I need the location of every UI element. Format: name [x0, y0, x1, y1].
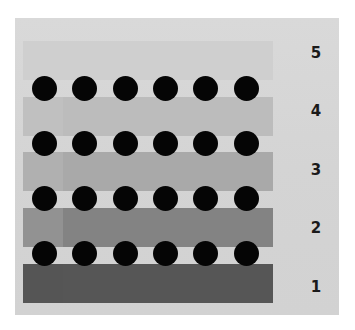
black-dot	[153, 76, 178, 101]
black-dot	[153, 131, 178, 156]
black-dot	[193, 241, 218, 266]
black-dot	[234, 131, 259, 156]
black-dot	[32, 241, 57, 266]
level-label-4: 4	[306, 102, 326, 120]
gray-band-2	[23, 208, 273, 247]
level-label-5: 5	[306, 44, 326, 62]
black-dot	[193, 76, 218, 101]
black-dot	[72, 186, 97, 211]
black-dot	[153, 186, 178, 211]
black-dot	[234, 76, 259, 101]
black-dot	[234, 241, 259, 266]
gray-band-1	[23, 264, 273, 303]
level-label-3: 3	[306, 161, 326, 179]
black-dot	[193, 186, 218, 211]
black-dot	[72, 131, 97, 156]
black-dot	[113, 131, 138, 156]
gray-band-left-segment	[23, 264, 63, 303]
gray-band-4	[23, 97, 273, 136]
black-dot	[153, 241, 178, 266]
black-dot	[234, 186, 259, 211]
level-label-1: 1	[306, 278, 326, 296]
black-dot	[72, 241, 97, 266]
black-dot	[72, 76, 97, 101]
level-label-2: 2	[306, 219, 326, 237]
black-dot	[113, 241, 138, 266]
gray-band-5	[23, 41, 273, 80]
black-dot	[193, 131, 218, 156]
gray-band-3	[23, 152, 273, 191]
black-dot	[32, 131, 57, 156]
gray-band-left-segment	[23, 41, 63, 80]
black-dot	[32, 186, 57, 211]
black-dot	[113, 186, 138, 211]
black-dot	[32, 76, 57, 101]
black-dot	[113, 76, 138, 101]
